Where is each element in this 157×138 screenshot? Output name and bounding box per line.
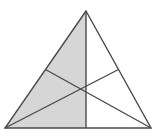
triangle-medians-figure: Triangle with three medians, left half s… (0, 0, 157, 138)
diagram-canvas: Triangle with three medians, left half s… (0, 0, 157, 138)
